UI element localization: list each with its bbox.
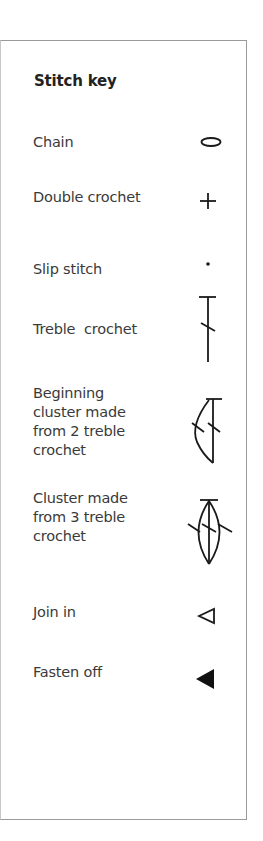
cluster-3-treble-label: Cluster made from 3 treble crochet (33, 489, 128, 546)
fasten-off-label: Fasten off (33, 663, 102, 682)
slip-stitch-label: Slip stitch (33, 260, 102, 279)
join-in-label: Join in (33, 603, 76, 622)
stitch-key-title: Stitch key (34, 72, 117, 90)
chain-label: Chain (33, 133, 73, 152)
double-crochet-label: Double crochet (33, 188, 140, 207)
treble-crochet-label: Treble crochet (33, 320, 137, 339)
beginning-cluster-label: Beginning cluster made from 2 treble cro… (33, 384, 126, 460)
